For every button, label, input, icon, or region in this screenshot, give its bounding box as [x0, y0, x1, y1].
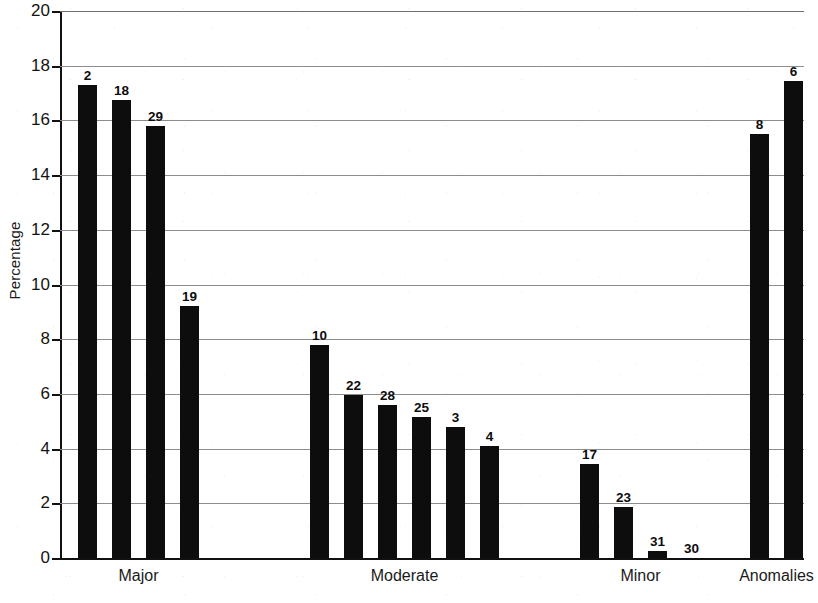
gridline	[60, 394, 804, 395]
gridline	[60, 503, 804, 504]
bar	[180, 306, 199, 558]
bar-value-label: 31	[639, 535, 676, 549]
y-axis-tick-label: 18	[4, 57, 50, 74]
bar-value-label: 25	[403, 401, 440, 415]
gridline	[60, 285, 804, 286]
bar-value-label: 22	[335, 379, 372, 393]
category-label-major: Major	[49, 568, 229, 584]
bar-value-label: 30	[673, 542, 710, 556]
bar	[310, 345, 329, 558]
bar	[614, 507, 633, 558]
plot-area: 218291910222825341723313086	[60, 11, 804, 558]
bar	[78, 85, 97, 558]
y-axis-tick-label: 4	[4, 440, 50, 457]
gridline	[60, 66, 804, 67]
category-label-moderate: Moderate	[315, 568, 495, 584]
x-axis-baseline	[60, 558, 804, 560]
y-axis-tick-label: 20	[4, 2, 50, 19]
y-axis-tick-label: 14	[4, 166, 50, 183]
bar-value-label: 8	[741, 118, 778, 132]
bar	[580, 464, 599, 558]
bar-value-label: 4	[471, 430, 508, 444]
bar-value-label: 23	[605, 491, 642, 505]
bar	[412, 417, 431, 558]
gridline	[60, 449, 804, 450]
y-axis-tick-label: 10	[4, 276, 50, 293]
bar-value-label: 18	[103, 84, 140, 98]
y-axis-tick-label: 16	[4, 111, 50, 128]
bar	[378, 405, 397, 558]
gridline	[60, 11, 804, 12]
y-axis-tick-label: 8	[4, 330, 50, 347]
gridline	[60, 339, 804, 340]
y-axis-tick-label: 2	[4, 494, 50, 511]
gridline	[60, 175, 804, 176]
bar-value-label: 3	[437, 411, 474, 425]
bar	[344, 395, 363, 558]
y-axis-tick-label: 6	[4, 385, 50, 402]
bar-value-label: 17	[571, 448, 608, 462]
bar	[446, 427, 465, 558]
bar-value-label: 10	[301, 329, 338, 343]
bar	[112, 100, 131, 558]
bar-value-label: 2	[69, 69, 106, 83]
bar	[784, 81, 803, 558]
y-axis-tick-label: 0	[4, 549, 50, 566]
y-axis-tick-labels: 02468101214161820	[0, 0, 50, 603]
bar-value-label: 28	[369, 389, 406, 403]
x-axis-category-labels: MajorModerateMinorAnomalies	[0, 568, 804, 598]
bar-value-label: 6	[775, 65, 812, 79]
bar	[480, 446, 499, 558]
bar-value-label: 19	[171, 290, 208, 304]
bar	[750, 134, 769, 558]
bar-value-label: 29	[137, 110, 174, 124]
category-label-anomalies: Anomalies	[687, 568, 818, 584]
y-axis-tick-label: 12	[4, 221, 50, 238]
bar	[146, 126, 165, 558]
gridline	[60, 230, 804, 231]
bar	[648, 551, 667, 558]
